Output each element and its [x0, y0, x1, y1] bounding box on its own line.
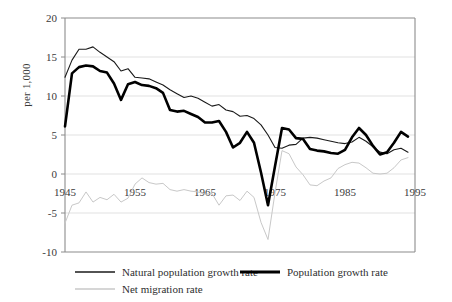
line-chart: -10-505101520 194519551965197519851995 N…	[0, 0, 452, 302]
y-axis-title: per 1,000	[20, 45, 40, 125]
legend-label: Natural population growth rate	[122, 266, 258, 278]
x-tick-label: 1985	[334, 186, 357, 198]
series-lines	[65, 47, 408, 240]
x-axis-tick-labels: 194519551965197519851995	[54, 186, 427, 198]
y-tick-label: -10	[42, 246, 57, 258]
y-tick-label: 20	[46, 12, 58, 24]
series-line	[65, 47, 408, 154]
chart-legend: Natural population growth ratePopulation…	[75, 266, 388, 295]
y-axis-tick-labels: -10-505101520	[42, 12, 65, 258]
chart-container: per 1,000 -10-505101520 1945195519651975…	[0, 0, 452, 302]
x-tick-label: 1955	[124, 186, 147, 198]
y-tick-label: -5	[48, 207, 58, 219]
gridlines	[65, 57, 415, 213]
y-tick-label: 10	[46, 90, 58, 102]
legend-label: Net migration rate	[122, 283, 203, 295]
y-tick-label: 0	[52, 168, 58, 180]
series-line	[65, 151, 408, 240]
legend-label: Population growth rate	[287, 266, 388, 278]
y-tick-label: 5	[52, 129, 58, 141]
y-tick-label: 15	[46, 51, 58, 63]
x-tick-label: 1995	[404, 186, 427, 198]
x-tick-label: 1945	[54, 186, 77, 198]
